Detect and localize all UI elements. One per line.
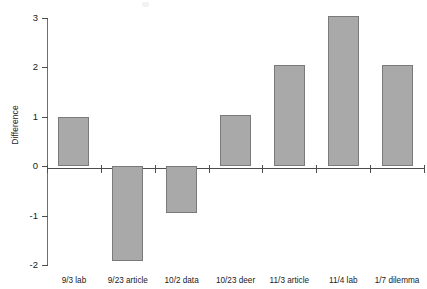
x-axis-label: 10/2 data	[155, 276, 209, 286]
x-axis-label: 11/3 article	[262, 276, 316, 286]
bar	[58, 117, 89, 166]
y-axis-line	[47, 18, 48, 266]
x-axis-label: 11/4 lab	[316, 276, 370, 286]
x-axis-tick	[155, 165, 156, 173]
x-axis-tick	[47, 165, 48, 173]
bar	[220, 115, 251, 166]
x-axis-tick	[101, 165, 102, 173]
y-axis-title: Difference	[10, 77, 20, 173]
x-axis-tick	[262, 165, 263, 173]
x-axis-tick	[370, 165, 371, 173]
x-axis-line	[47, 168, 424, 169]
x-axis-tick	[316, 165, 317, 173]
y-axis-tick: 2	[42, 67, 48, 68]
bar	[112, 166, 143, 261]
bar	[166, 166, 197, 213]
y-axis-tick: 3	[42, 18, 48, 19]
y-axis-tick: -2	[42, 265, 48, 266]
bar	[274, 65, 305, 166]
bar	[382, 65, 413, 166]
y-axis-tick-label: 1	[33, 111, 38, 122]
y-axis-tick-label: 2	[33, 61, 38, 72]
y-axis-tick: -1	[42, 216, 48, 217]
x-axis-tick	[424, 165, 425, 173]
bar	[328, 16, 359, 167]
y-axis-tick-label: -2	[30, 259, 38, 270]
x-axis-label: 10/23 deer	[209, 276, 263, 286]
x-axis-label: 1/7 dilemma	[370, 276, 424, 286]
y-axis-tick: 1	[42, 117, 48, 118]
y-axis-tick-label: 0	[33, 160, 38, 171]
x-axis-tick	[209, 165, 210, 173]
y-axis-tick-label: -1	[30, 210, 38, 221]
bar-chart: Difference 3210-1-2 9/3 lab9/23 article1…	[0, 0, 427, 289]
scan-artifact	[142, 2, 149, 7]
x-axis-label: 9/23 article	[101, 276, 155, 286]
plot-area: 3210-1-2 9/3 lab9/23 article10/2 data10/…	[47, 14, 425, 269]
x-axis-label: 9/3 lab	[47, 276, 101, 286]
y-axis-tick-label: 3	[33, 12, 38, 23]
